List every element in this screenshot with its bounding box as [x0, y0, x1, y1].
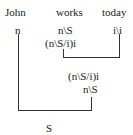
- link-works-today-horizontal: [63, 57, 120, 58]
- word-john: John: [5, 6, 26, 18]
- combined-step2: n\S: [83, 83, 98, 95]
- link-john-vertical: [18, 34, 19, 111]
- category-works-raised: (n\S/i)i: [45, 37, 76, 49]
- link-today-vertical: [119, 34, 120, 57]
- result-category: S: [46, 122, 52, 134]
- category-today: i\i: [113, 24, 122, 36]
- word-works: works: [56, 6, 83, 18]
- combined-step1: (n\S/i)i: [68, 70, 99, 82]
- word-today: today: [102, 6, 126, 18]
- link-works-vertical: [63, 49, 64, 57]
- link-john-step2-horizontal: [18, 110, 92, 111]
- link-step2-vertical: [91, 97, 92, 111]
- category-works: n\S: [58, 24, 73, 36]
